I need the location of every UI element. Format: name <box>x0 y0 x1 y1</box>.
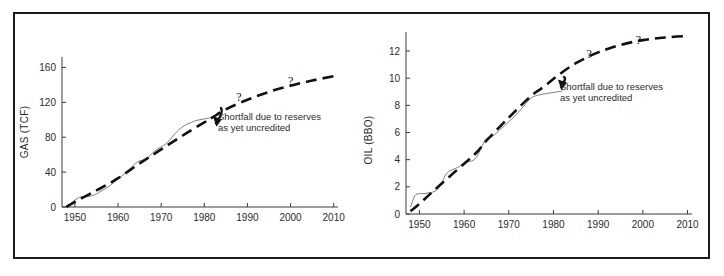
annotation-text-line1: Shortfall due to reserves <box>218 111 321 122</box>
y-tick-label: 80 <box>45 132 57 143</box>
question-mark-label: ? <box>288 74 293 88</box>
x-axis: 1950196019701980199020002010 <box>64 203 345 223</box>
x-tick-label: 2010 <box>676 219 699 230</box>
y-axis: 024681012 <box>389 46 410 220</box>
y-tick-label: 2 <box>394 181 400 192</box>
x-tick-label: 1980 <box>542 219 565 230</box>
series-line-extrapolated <box>410 36 687 211</box>
x-tick-label: 2010 <box>323 212 346 223</box>
axes-group <box>406 32 692 214</box>
chart-panels: 195019601970198019902000201004080120160G… <box>0 0 724 276</box>
question-mark-label: ? <box>236 90 241 104</box>
y-tick-label: 0 <box>50 202 56 213</box>
chart-gas: 195019601970198019902000201004080120160G… <box>0 0 372 276</box>
y-tick-label: 10 <box>389 73 401 84</box>
x-tick-label: 1990 <box>587 219 610 230</box>
x-axis: 1950196019701980199020002010 <box>408 210 699 230</box>
x-tick-label: 1970 <box>498 219 521 230</box>
x-tick-label: 2000 <box>279 212 302 223</box>
x-tick-label: 1980 <box>193 212 216 223</box>
y-axis-label: GAS (TCF) <box>19 106 30 159</box>
x-tick-label: 2000 <box>632 219 655 230</box>
annotation-text-line1: Shortfall due to reserves <box>560 81 663 92</box>
y-tick-label: 0 <box>394 209 400 220</box>
figure-root: 195019601970198019902000201004080120160G… <box>0 0 724 276</box>
y-tick-label: 4 <box>394 154 400 165</box>
annotation-shortfall: Shortfall due to reservesas yet uncredit… <box>213 108 321 133</box>
annotation-shortfall: Shortfall due to reservesas yet uncredit… <box>558 77 663 103</box>
x-tick-label: 1990 <box>236 212 259 223</box>
x-tick-label: 1960 <box>107 212 130 223</box>
y-tick-label: 8 <box>394 100 400 111</box>
question-mark-label: ? <box>636 33 641 47</box>
y-tick-label: 120 <box>39 97 56 108</box>
series-line-actual <box>410 91 562 207</box>
series-line-extrapolated <box>66 76 333 207</box>
y-tick-label: 6 <box>394 127 400 138</box>
chart-panel-oil: 1950196019701980199020002010024681012OIL… <box>352 0 724 276</box>
x-tick-label: 1960 <box>453 219 476 230</box>
chart-panel-gas: 195019601970198019902000201004080120160G… <box>0 0 372 276</box>
x-tick-label: 1950 <box>64 212 87 223</box>
y-axis-label: OIL (BBO) <box>363 115 374 164</box>
question-mark-label: ? <box>587 47 592 61</box>
annotation-text-line2: as yet uncredited <box>218 122 290 133</box>
annotation-text-line2: as yet uncredited <box>560 92 632 103</box>
chart-oil: 1950196019701980199020002010024681012OIL… <box>352 0 724 276</box>
y-tick-label: 160 <box>39 62 56 73</box>
axes-group <box>62 57 338 207</box>
x-tick-label: 1950 <box>408 219 431 230</box>
y-tick-label: 12 <box>389 46 401 57</box>
x-tick-label: 1970 <box>150 212 173 223</box>
y-tick-label: 40 <box>45 167 57 178</box>
